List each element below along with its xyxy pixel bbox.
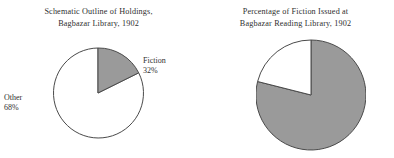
chart-title-line-2: Bagbazar Reading Library, 1902 (197, 18, 394, 30)
pie-label-other-value: 68% (4, 103, 22, 113)
pie-chart-figure: Schematic Outline of Holdings, Bagbazar … (0, 0, 394, 158)
chart-title-line-1: Percentage of Fiction Issued at (197, 6, 394, 18)
chart-panel-holdings: Schematic Outline of Holdings, Bagbazar … (0, 0, 197, 158)
pie-label-other-holdings: Other 68% (4, 93, 22, 113)
chart-title-holdings: Schematic Outline of Holdings, Bagbazar … (0, 6, 197, 29)
pie-label-fiction-value: 32% (143, 66, 166, 76)
pie-chart-holdings (51, 38, 147, 148)
pie-label-fiction-holdings: Fiction 32% (143, 56, 166, 76)
chart-title-line-1: Schematic Outline of Holdings, (0, 6, 197, 18)
pie-label-other-name: Other (4, 93, 22, 102)
chart-title-fiction-issued: Percentage of Fiction Issued at Bagbazar… (197, 6, 394, 29)
pie-label-fiction-name: Fiction (143, 56, 166, 65)
pie-chart-fiction-issued (256, 37, 366, 153)
chart-panel-fiction-issued: Percentage of Fiction Issued at Bagbazar… (197, 0, 394, 158)
chart-title-line-2: Bagbazar Library, 1902 (0, 18, 197, 30)
